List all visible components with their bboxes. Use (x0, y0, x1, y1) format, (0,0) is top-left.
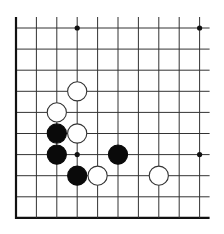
star-point-icon (197, 152, 202, 157)
white-stone[interactable] (68, 124, 87, 143)
star-point-icon (75, 25, 80, 30)
go-board[interactable] (0, 0, 224, 234)
black-stone[interactable] (68, 166, 87, 185)
black-stone[interactable] (108, 145, 127, 164)
star-point-icon (75, 152, 80, 157)
black-stone[interactable] (47, 124, 66, 143)
white-stone[interactable] (149, 166, 168, 185)
white-stone[interactable] (88, 166, 107, 185)
white-stone[interactable] (47, 103, 66, 122)
white-stone[interactable] (68, 82, 87, 101)
board-grid (16, 17, 210, 219)
black-stone[interactable] (47, 145, 66, 164)
star-point-icon (197, 25, 202, 30)
